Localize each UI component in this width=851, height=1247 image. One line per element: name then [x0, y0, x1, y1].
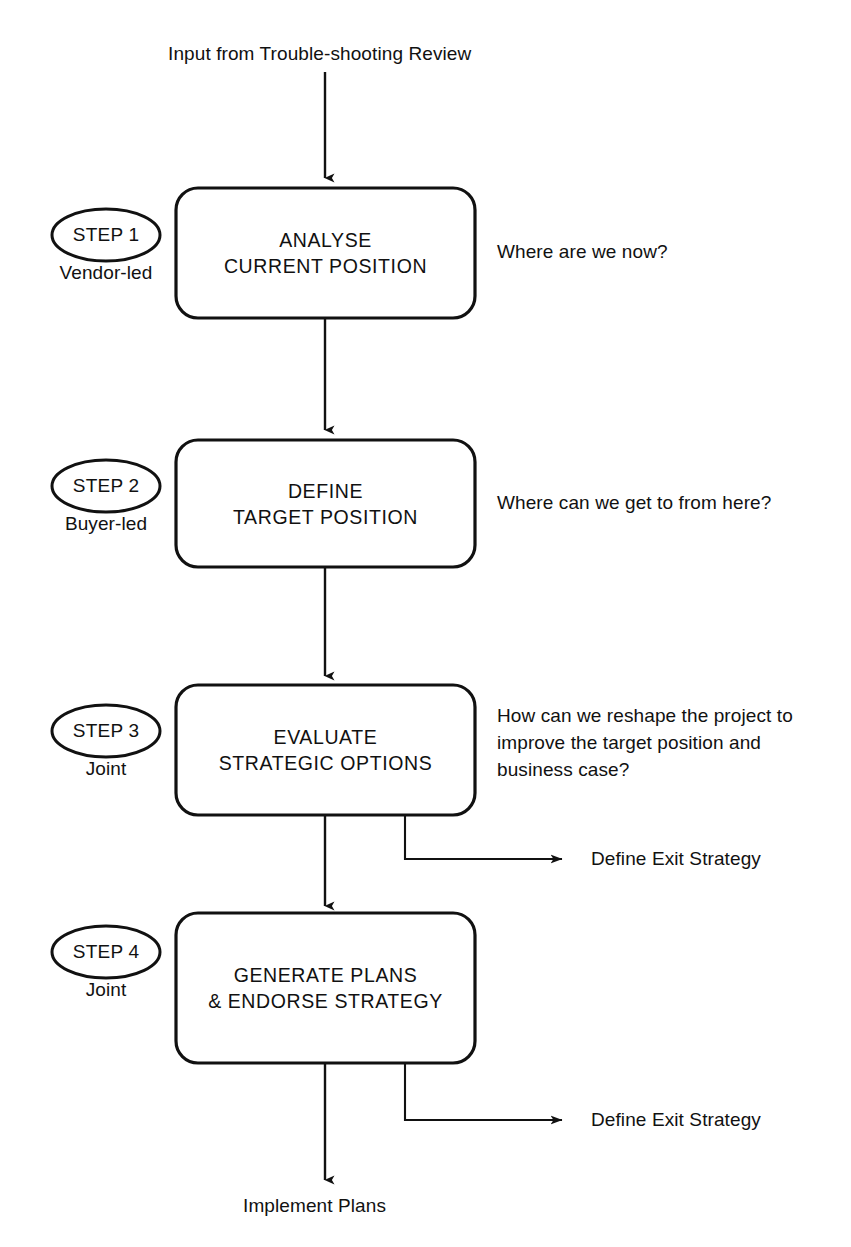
implement-plans-label: Implement Plans — [243, 1194, 386, 1218]
step-3-badge-label: STEP 3 — [50, 720, 162, 742]
step-1-question: Where are we now? — [497, 238, 668, 265]
step-3-question-line-2: improve the target position and — [497, 729, 793, 756]
step-2-owner-label: Buyer-led — [36, 513, 176, 535]
step-3-exit-strategy-label: Define Exit Strategy — [591, 847, 761, 871]
step-3-owner-label: Joint — [36, 758, 176, 780]
step-1-badge-label: STEP 1 — [50, 224, 162, 246]
branch-step3-exit-strategy — [405, 815, 562, 859]
branch-step4-exit-strategy — [405, 1063, 562, 1120]
step-1-box — [176, 188, 475, 318]
step-3-question: How can we reshape the project to improv… — [497, 702, 793, 783]
step-4-exit-strategy-label: Define Exit Strategy — [591, 1108, 761, 1132]
step-4-badge-label: STEP 4 — [50, 941, 162, 963]
step-2-question: Where can we get to from here? — [497, 489, 771, 516]
step-3-question-line-3: business case? — [497, 756, 793, 783]
step-1-owner-label: Vendor-led — [36, 262, 176, 284]
step-3-box — [176, 685, 475, 815]
step-4-box — [176, 913, 475, 1063]
step-2-question-line-1: Where can we get to from here? — [497, 489, 771, 516]
input-source-label: Input from Trouble-shooting Review — [168, 42, 471, 66]
flowchart-lines — [0, 0, 851, 1247]
flowchart-canvas: Input from Trouble-shooting Review STEP … — [0, 0, 851, 1247]
step-2-box — [176, 440, 475, 567]
step-4-owner-label: Joint — [36, 979, 176, 1001]
step-1-question-line-1: Where are we now? — [497, 238, 668, 265]
step-2-badge-label: STEP 2 — [50, 475, 162, 497]
step-3-question-line-1: How can we reshape the project to — [497, 702, 793, 729]
